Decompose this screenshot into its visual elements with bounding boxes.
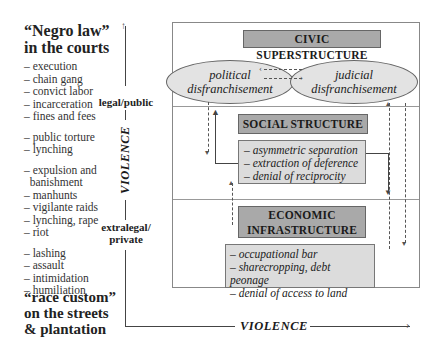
list-item: – manhunts [24, 189, 98, 202]
solid-arrow-up-line [215, 115, 216, 163]
solid-arrowhead-down: ▼ [384, 188, 392, 197]
list-item: – denial of reciprocity [244, 170, 360, 183]
vertical-axis-line-bottom [125, 250, 126, 327]
social-structure-title: SOCIAL STRUCTURE [238, 114, 368, 134]
bottom-heading-line: “race custom” [24, 289, 116, 305]
economic-title-line: INFRASTRUCTURE [239, 223, 365, 238]
bottom-heading: “race custom” on the streets & plantatio… [24, 289, 116, 337]
dashed-arrow-left-up [232, 183, 233, 225]
ellipse-text: disfranchisement [167, 82, 293, 96]
extralegal-label: extralegal/ [92, 221, 160, 233]
dashed-arrow-left-down [208, 102, 209, 152]
vertical-axis-arrowhead: ↑ [121, 22, 126, 30]
extralegal-private-label: extralegal/ private [92, 221, 160, 245]
dashed-arrowhead-right-up: ▴ [386, 99, 390, 108]
top-heading: “Negro law” in the courts [24, 22, 109, 56]
bottom-heading-line: & plantation [24, 321, 116, 337]
economic-title-line: ECONOMIC [239, 208, 365, 223]
list-item: – extraction of deference [244, 157, 360, 170]
political-disfranchisement-ellipse: political disfranchisement [166, 60, 294, 104]
horizontal-axis-title: VIOLENCE [240, 319, 308, 334]
list-item: – chain gang [24, 73, 98, 86]
list-item: – incarceration [24, 98, 98, 111]
dashed-arrowhead-left: ‹ [259, 63, 262, 73]
economic-infrastructure-items: – occupational bar – sharecropping, debt… [225, 244, 375, 288]
list-item: – expulsion and [24, 164, 98, 177]
list-item: – lynching [24, 143, 98, 156]
horizontal-axis-line-left [125, 326, 235, 327]
list-item: – assault [24, 259, 98, 272]
list-item: – execution [24, 60, 98, 73]
list-item: banishment [24, 176, 98, 189]
horizontal-axis-line-right [310, 326, 410, 327]
top-heading-line: “Negro law” [24, 22, 109, 39]
judicial-disfranchisement-ellipse: judicial disfranchisement [290, 60, 418, 104]
solid-arrow-down-connector [366, 153, 388, 154]
horizontal-axis-arrowhead: › [406, 318, 410, 330]
vertical-axis-line-top [125, 26, 126, 86]
legal-public-label: legal/public [95, 96, 157, 108]
ellipse-text: judicial [291, 68, 417, 82]
dashed-arrowhead-right: › [300, 72, 303, 82]
list-item: – lashing [24, 247, 98, 260]
dashed-arrow-right-down [405, 103, 406, 243]
solid-arrowhead-up: ▲ [211, 107, 220, 117]
dashed-arrow-right-up [389, 103, 390, 249]
private-label: private [92, 233, 160, 245]
social-structure-items: – asymmetric separation – extraction of … [238, 140, 366, 184]
top-heading-line: in the courts [24, 39, 109, 56]
dashed-arrow-left [264, 69, 302, 70]
list-item: – fines and fees [24, 110, 98, 123]
list-item: – riot [24, 226, 98, 239]
bottom-heading-line: on the streets [24, 305, 116, 321]
list-item: – denial of access to land [230, 287, 369, 300]
civic-superstructure-title: CIVIC SUPERSTRUCTURE [243, 30, 381, 48]
social-economic-divider [173, 199, 419, 200]
dashed-arrowhead-left-up: ▴ [229, 178, 233, 187]
list-item: – intimidation [24, 272, 98, 285]
dashed-arrowhead-left-down: ▾ [205, 148, 209, 157]
vertical-axis-line-mid-top [125, 110, 126, 120]
list-item: – occupational bar [230, 248, 369, 261]
vertical-axis-title: VIOLENCE [118, 124, 133, 196]
list-item: – lynching, rape [24, 214, 98, 227]
violence-list: – execution – chain gang – convict labor… [24, 60, 98, 297]
dashed-arrow-right [264, 78, 302, 79]
ellipse-text: political [167, 68, 293, 82]
list-item: – sharecropping, debt peonage [230, 261, 369, 287]
structure-diagram: CIVIC SUPERSTRUCTURE political disfranch… [172, 22, 420, 288]
solid-arrow-up-connector [215, 163, 238, 164]
list-item: – vigilante raids [24, 201, 98, 214]
civic-social-divider [173, 106, 419, 107]
list-item: – public torture [24, 131, 98, 144]
dashed-arrowhead-right-down: ▾ [402, 239, 406, 248]
vertical-axis-line-mid-bottom [125, 200, 126, 220]
list-item: – convict labor [24, 85, 98, 98]
list-item: – asymmetric separation [244, 144, 360, 157]
economic-infrastructure-title: ECONOMIC INFRASTRUCTURE [238, 206, 366, 238]
ellipse-text: disfranchisement [291, 82, 417, 96]
